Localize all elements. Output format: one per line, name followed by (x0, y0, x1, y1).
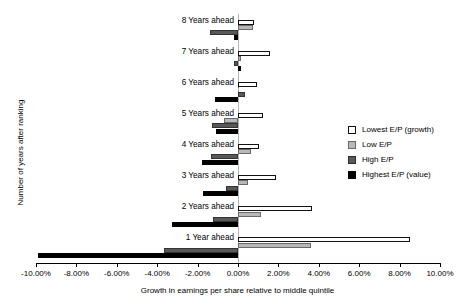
legend-label: Low E/P (362, 140, 392, 149)
x-axis-title: Growth in earnings per share relative to… (0, 286, 475, 295)
y-axis-tick-label: 5 Years ahead (182, 109, 234, 118)
bar (215, 97, 238, 102)
bar (238, 25, 253, 30)
y-axis-tick-label: 2 Years ahead (182, 202, 234, 211)
y-axis-tick-label: 3 Years ahead (182, 171, 234, 180)
legend-swatch-icon (348, 156, 356, 164)
chart-figure: Number of years after ranking 1 Year ahe… (0, 0, 475, 306)
x-axis-tick (319, 263, 320, 267)
x-axis-tick (440, 263, 441, 267)
y-axis-title: Number of years after ranking (16, 63, 25, 243)
bar-group: 1 Year ahead (36, 232, 440, 263)
y-axis-tick-label: 4 Years ahead (182, 140, 234, 149)
bar (238, 66, 241, 71)
bar (238, 243, 311, 248)
legend-swatch-icon (348, 141, 356, 149)
x-axis-tick (278, 263, 279, 267)
legend-label: High E/P (362, 155, 394, 164)
legend-label: Highest E/P (value) (362, 170, 431, 179)
bar (238, 56, 241, 61)
bar-group: 8 Years ahead (36, 14, 440, 45)
x-axis-tick (198, 263, 199, 267)
bar (203, 191, 238, 196)
x-axis-tick (400, 263, 401, 267)
y-axis-tick-label: 6 Years ahead (182, 78, 234, 87)
bar (238, 92, 245, 97)
bar-group: 2 Years ahead (36, 201, 440, 232)
x-axis-tick (359, 263, 360, 267)
legend-swatch-icon (348, 171, 356, 179)
bar-group: 7 Years ahead (36, 45, 440, 76)
bar (238, 82, 257, 87)
bar (216, 129, 238, 134)
bar (238, 113, 263, 118)
x-axis-tick-label: 10.00% (412, 269, 468, 278)
x-axis-tick (76, 263, 77, 267)
bar (238, 180, 248, 185)
bar (238, 212, 261, 217)
bar (38, 253, 238, 258)
bar-group: 6 Years ahead (36, 76, 440, 107)
bar (238, 149, 251, 154)
plot-area: 1 Year ahead2 Years ahead3 Years ahead4 … (36, 14, 440, 263)
legend-label: Lowest E/P (growth) (362, 125, 434, 134)
x-axis-tick (238, 263, 239, 267)
x-axis-tick (117, 263, 118, 267)
y-axis-tick-label: 7 Years ahead (182, 47, 234, 56)
y-axis-tick-label: 8 Years ahead (182, 16, 234, 25)
x-axis-tick (36, 263, 37, 267)
bar (238, 51, 270, 56)
bar (234, 35, 238, 40)
x-axis-tick (157, 263, 158, 267)
bar (172, 222, 238, 227)
legend-swatch-icon (348, 126, 356, 134)
bar (202, 160, 238, 165)
y-axis-tick-label: 1 Year ahead (186, 233, 234, 242)
